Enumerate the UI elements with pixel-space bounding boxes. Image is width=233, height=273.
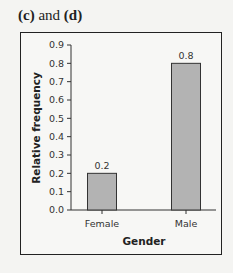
y-tick-label: 0.8 — [49, 58, 64, 69]
x-category-label: Female — [85, 218, 120, 229]
x-category-label: Male — [175, 218, 198, 229]
y-axis-title: Relative frequency — [30, 72, 42, 184]
y-tick-label: 0.2 — [49, 168, 64, 179]
y-tick-label: 0.3 — [49, 149, 64, 160]
bar-value-label: 0.2 — [94, 160, 109, 171]
x-axis-title: Gender — [122, 235, 166, 247]
y-tick-label: 0.0 — [49, 204, 64, 215]
y-tick-label: 0.1 — [49, 186, 64, 197]
bar-value-label: 0.8 — [178, 50, 193, 61]
y-tick-label: 0.6 — [49, 94, 64, 105]
y-tick-label: 0.5 — [49, 113, 64, 124]
bar-male — [172, 63, 201, 210]
y-tick-label: 0.7 — [49, 76, 64, 87]
bar-female — [88, 173, 117, 210]
y-tick-label: 0.9 — [49, 39, 64, 50]
y-tick-label: 0.4 — [49, 131, 64, 142]
bar-chart: 0.00.10.20.30.40.50.60.70.80.90.2Female0… — [0, 0, 233, 273]
